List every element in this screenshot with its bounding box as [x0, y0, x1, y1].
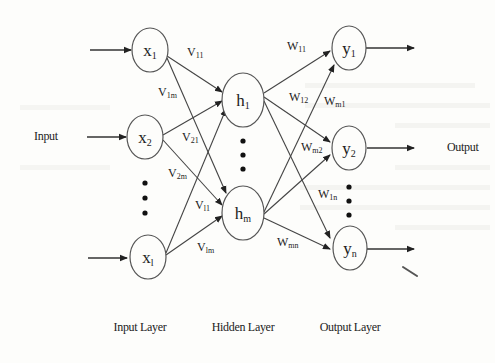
node-x1: x1	[132, 28, 168, 72]
input-label: Input	[34, 129, 59, 143]
edge-x1-h1	[167, 56, 222, 92]
node-xl: xl	[130, 235, 166, 279]
hidden-layer-label: Hidden Layer	[212, 320, 275, 334]
weight-w11: W11	[287, 39, 306, 54]
hidden-ellipsis-dots	[240, 138, 245, 171]
edge-h1-yn	[264, 101, 330, 238]
node-y2: y2	[332, 126, 366, 170]
weight-v11: V11	[187, 45, 203, 60]
input-hidden-weight-labels: V11 V1m V21 V2m Vl1 Vlm	[158, 45, 215, 255]
input-hidden-edges	[163, 56, 226, 255]
hidden-layer-nodes: h1 hm	[222, 73, 264, 240]
node-yn: yn	[333, 226, 367, 270]
weight-vl1: Vl1	[195, 198, 210, 213]
input-layer-label: Input Layer	[113, 320, 166, 334]
weight-wmn: Wmn	[277, 235, 299, 250]
weight-v2m: V2m	[168, 166, 188, 181]
output-label: Output	[447, 140, 480, 154]
edge-x2-h1	[163, 101, 222, 135]
output-layer-nodes: y1 y2 yn	[332, 26, 367, 270]
edge-xl-h1	[166, 109, 226, 253]
output-arrows	[366, 48, 414, 249]
node-y1: y1	[332, 26, 366, 70]
weight-v21: V21	[182, 130, 199, 145]
weight-vlm: Vlm	[197, 240, 215, 255]
weight-v1m: V1m	[158, 85, 178, 100]
weight-wm1: Wm1	[324, 94, 346, 109]
input-arrows	[87, 50, 131, 258]
neural-network-diagram: x1 x2 xl h1 hm	[0, 0, 495, 363]
input-ellipsis-dots	[142, 180, 147, 215]
node-h1: h1	[222, 73, 264, 127]
weight-wm2: Wm2	[301, 140, 323, 155]
node-hm: hm	[222, 186, 264, 240]
output-layer-label: Output Layer	[320, 320, 381, 334]
weight-w12: W12	[289, 90, 308, 105]
node-x2: x2	[127, 115, 163, 159]
hidden-output-edges	[264, 51, 334, 249]
input-layer-nodes: x1 x2 xl	[127, 28, 168, 279]
stray-pen-mark	[403, 267, 417, 276]
